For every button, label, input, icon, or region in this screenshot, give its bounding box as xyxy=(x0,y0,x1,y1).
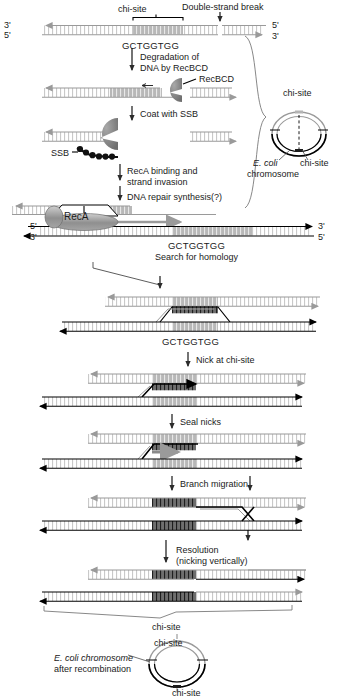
ecoli-after-label-line1: E. coli chromosome xyxy=(54,653,133,663)
step-degradation-line1: Degradation of xyxy=(140,52,199,62)
recbcd-label: RecBCD xyxy=(199,74,234,84)
chi-site-label-after-top: chi-site xyxy=(154,638,183,648)
five-prime-top-right: 5' xyxy=(272,20,279,30)
step-reca-line1: RecA binding and xyxy=(127,166,198,176)
chi-sequence-step1: GCTGGTGG xyxy=(122,40,179,51)
step-repair-synthesis-label: DNA repair synthesis(?) xyxy=(127,192,222,202)
ecoli-label-line2: chromosome xyxy=(247,169,299,179)
diagram-canvas xyxy=(0,0,338,699)
five-prime-bottom-left: 5' xyxy=(4,30,11,40)
duplex-step1 xyxy=(42,12,266,37)
side-brace xyxy=(245,36,266,208)
step-branch-migration-label: Branch migration xyxy=(180,479,248,489)
duplex-step5-top xyxy=(105,297,320,322)
chi-sequence-step5: GCTGGTGG xyxy=(162,336,219,347)
three-prime-step4: 3' xyxy=(30,232,37,242)
chi-site-label-chromosome-top: chi-site xyxy=(283,88,312,98)
five-prime-step4: 5' xyxy=(30,221,37,231)
three-prime-bottom-right: 3' xyxy=(272,31,279,41)
step-seal-nicks-label: Seal nicks xyxy=(180,417,221,427)
chi-site-label-bottom-brace: chi-site xyxy=(152,622,181,632)
three-prime-step4-right: 3' xyxy=(318,221,325,231)
chi-site-label-after-bottom: chi-site xyxy=(172,688,201,698)
chi-brace-bottom xyxy=(44,605,292,618)
step-reca-line2: strand invasion xyxy=(127,177,188,187)
duplex-step5-bottom xyxy=(60,322,316,331)
chi-site-label-chromosome-bottom: chi-site xyxy=(300,158,329,168)
step-degradation-line2: DNA by RecBCD xyxy=(140,63,208,73)
chi-sequence-step4: GCTGGTGG xyxy=(168,240,225,251)
five-prime-step4-right: 5' xyxy=(318,232,325,242)
ecoli-label-line1: E. coli xyxy=(253,158,278,168)
ecoli-chromosome-before xyxy=(270,111,328,161)
double-strand-break-label: Double-strand break xyxy=(182,2,264,12)
step-nick-chi-label: Nick at chi-site xyxy=(196,355,255,365)
duplex-step3 xyxy=(42,118,236,160)
homology-pointer xyxy=(93,262,160,285)
step-resolution-line2: (nicking vertically) xyxy=(176,556,248,566)
duplex-step6 xyxy=(40,374,306,406)
duplex-step7 xyxy=(40,434,306,468)
step-resolution-line1: Resolution xyxy=(176,545,219,555)
duplex-step8 xyxy=(40,498,306,530)
ssb-label: SSB xyxy=(51,148,69,158)
chi-site-label-top: chi-site xyxy=(118,4,147,14)
reca-label: RecA xyxy=(64,212,88,222)
duplex-step9-top xyxy=(88,570,306,579)
three-prime-top-left: 3' xyxy=(4,20,11,30)
step-coat-ssb-label: Coat with SSB xyxy=(140,109,198,119)
step-search-homology-label: Search for homology xyxy=(155,252,238,262)
recombination-figure: chi-site Double-strand break 3' 5' 5' 3'… xyxy=(0,0,338,699)
duplex-step9-bottom xyxy=(40,592,304,601)
ecoli-after-label-line2: after recombination xyxy=(54,664,131,674)
